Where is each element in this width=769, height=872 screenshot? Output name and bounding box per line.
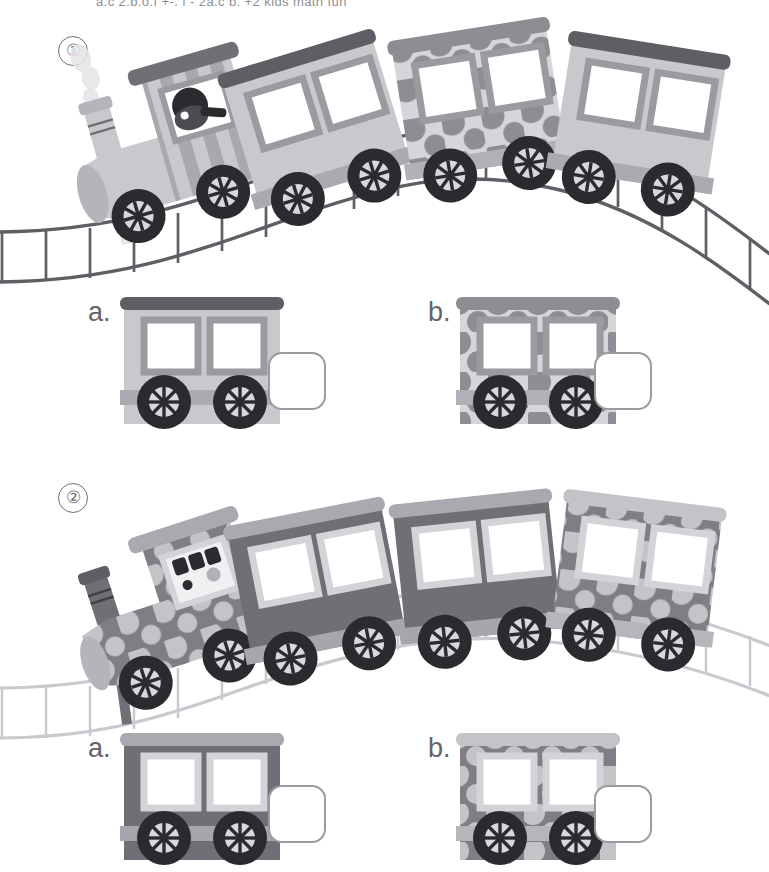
- option-2-a-letter: a.: [88, 733, 111, 764]
- train-car-1-3: [541, 30, 733, 223]
- worksheet-page: a.c 2.b.o.f +-, | - 2a,c b. +2 kids math…: [0, 0, 769, 872]
- option-1-a-checkbox[interactable]: [268, 352, 326, 410]
- problem-2-train-scene: [0, 450, 769, 760]
- option-2-b-checkbox[interactable]: [594, 785, 652, 843]
- option-1-b-checkbox[interactable]: [594, 352, 652, 410]
- option-1-a-letter: a.: [88, 297, 111, 328]
- train-car-2-3: [542, 488, 729, 676]
- problem-1-train-scene: [0, 0, 769, 300]
- option-2-a-checkbox[interactable]: [268, 785, 326, 843]
